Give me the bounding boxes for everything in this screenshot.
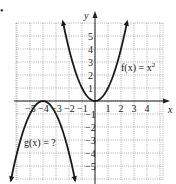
x-tick-label: 2 [119, 103, 124, 114]
x-tick-label: 4 [145, 103, 150, 114]
curve-arrow-icon [61, 20, 66, 26]
y-axis-arrow-icon [93, 11, 98, 18]
y-tick-label: −3 [85, 135, 96, 146]
x-axis-arrow-icon [163, 99, 170, 104]
x-axis-label: x [167, 104, 173, 115]
y-tick-label: 5 [88, 31, 93, 42]
f-label-text: f(x) = x [121, 62, 152, 74]
f-function-label: f(x) = x2 [121, 61, 156, 74]
curve-arrow-icon [9, 176, 14, 182]
coordinate-plane: x y −5−4−3−2−11234 54321−1−2−3−4−5 f(x) … [0, 0, 176, 184]
x-tick-label: 1 [106, 103, 111, 114]
y-tick-label: −5 [85, 161, 96, 172]
y-tick-label: 4 [88, 44, 93, 55]
y-tick-label: 3 [88, 57, 93, 68]
g-function-label: g(x) = ? [24, 137, 56, 149]
y-tick-label: −1 [85, 109, 96, 120]
f-label-exponent: 2 [152, 61, 156, 69]
x-tick-label: −2 [64, 103, 75, 114]
y-tick-label: −2 [85, 122, 96, 133]
curve-arrow-icon [72, 176, 77, 182]
y-tick-label: 1 [88, 83, 93, 94]
x-tick-label: −4 [38, 103, 49, 114]
x-tick-label: 3 [132, 103, 137, 114]
y-axis-label: y [83, 10, 89, 21]
y-tick-label: −4 [85, 148, 96, 159]
y-tick-label: 2 [88, 70, 93, 81]
